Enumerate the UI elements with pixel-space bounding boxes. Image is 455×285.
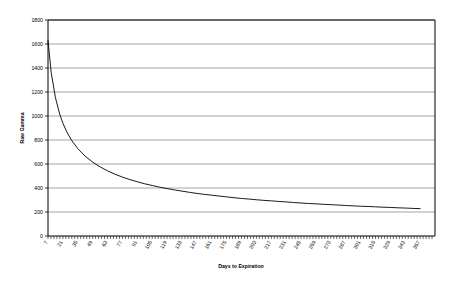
y-axis-tick-label: 800 [34,137,43,143]
y-axis-title: Raw Gamma [19,112,25,143]
y-axis-tick-label: 400 [34,185,43,191]
x-axis-tick-label: 329 [382,239,392,250]
x-axis-tick-label: 357 [411,239,421,250]
plot-area-background [48,20,435,236]
x-axis-tick-label: 49 [85,239,93,247]
x-axis-tick-label: 7 [42,239,49,245]
y-axis-tick-label: 1000 [31,113,43,119]
x-axis-tick-label: 315 [367,239,377,250]
chart-container: 020040060080010001200140016001800 721354… [0,0,455,285]
x-axis-tick-label: 189 [233,239,243,250]
y-axis-ticks: 020040060080010001200140016001800 [31,17,48,239]
y-axis-tick-label: 200 [34,209,43,215]
x-axis-tick-label: 147 [188,239,198,250]
x-axis-tick-label: 301 [352,239,362,250]
x-axis-tick-label: 203 [248,239,258,250]
x-axis-title: Days to Expiration [218,263,264,269]
x-axis-tick-label: 259 [307,239,317,250]
x-axis-tick-label: 35 [71,239,79,247]
y-axis-tick-label: 600 [34,161,43,167]
x-axis-tick-labels: 7213549637791105119133147161175189203217… [42,239,421,250]
y-axis-tick-label: 1600 [31,41,43,47]
x-axis-tick-label: 245 [292,239,302,250]
x-axis-tick-label: 231 [277,239,287,250]
x-axis-tick-label: 21 [56,239,64,247]
x-axis-tick-label: 273 [322,239,332,250]
x-axis-tick-label: 161 [203,239,213,250]
y-axis-tick-label: 0 [40,233,43,239]
x-axis-tick-label: 105 [144,239,154,250]
y-axis-tick-label: 1400 [31,65,43,71]
x-axis-tick-label: 91 [130,239,138,247]
x-axis-tick-label: 287 [337,239,347,250]
x-axis-tick-label: 217 [263,239,273,250]
y-axis-tick-label: 1200 [31,89,43,95]
x-axis-tick-label: 343 [397,239,407,250]
x-axis-tick-label: 119 [159,239,168,249]
x-axis-tick-label: 63 [100,239,108,247]
y-axis-tick-label: 1800 [31,17,43,23]
raw-gamma-line-chart: 020040060080010001200140016001800 721354… [0,0,455,285]
x-axis-tick-label: 175 [218,239,228,250]
x-axis-tick-label: 133 [173,239,183,250]
x-axis-tick-label: 77 [115,239,123,247]
